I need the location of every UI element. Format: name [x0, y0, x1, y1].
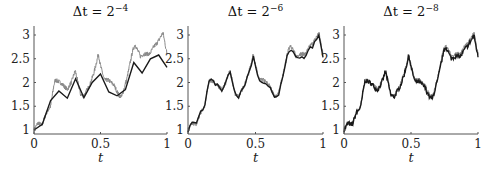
- y-tick-label: 2: [332, 76, 340, 90]
- panel-3: Δt = 2−811.522.5300.51t: [321, 3, 482, 165]
- approximation-line: [188, 35, 323, 132]
- panel-1: Δt = 2−411.522.5300.51t: [11, 3, 171, 165]
- y-tick-label: 3: [332, 28, 340, 42]
- y-tick-label: 1: [22, 123, 30, 137]
- panel-title: Δt = 2−8: [383, 3, 439, 19]
- approximation-line: [344, 35, 478, 132]
- x-tick-label: 0.5: [246, 137, 265, 151]
- y-tick-label: 1: [332, 123, 340, 137]
- y-tick-label: 2: [22, 76, 30, 90]
- y-tick-label: 2.5: [165, 52, 184, 66]
- x-tick-label: 1: [319, 137, 327, 151]
- y-tick-label: 3: [176, 28, 184, 42]
- y-tick-label: 1.5: [165, 99, 184, 113]
- y-tick-label: 1: [176, 123, 184, 137]
- panel-title: Δt = 2−4: [73, 3, 129, 19]
- x-tick-label: 0: [184, 137, 192, 151]
- y-tick-label: 3: [22, 28, 30, 42]
- x-axis-label: t: [98, 150, 104, 165]
- panel-title: Δt = 2−6: [228, 3, 284, 19]
- x-axis-label: t: [408, 150, 414, 165]
- y-tick-label: 1.5: [321, 99, 340, 113]
- x-tick-label: 1: [163, 137, 171, 151]
- exact-path-line: [34, 32, 167, 132]
- x-tick-label: 0.5: [401, 137, 420, 151]
- y-tick-label: 2: [176, 76, 184, 90]
- x-axis-label: t: [253, 150, 259, 165]
- y-tick-label: 2.5: [321, 52, 340, 66]
- x-tick-label: 0.5: [91, 137, 110, 151]
- x-tick-label: 0: [340, 137, 348, 151]
- x-tick-label: 1: [474, 137, 482, 151]
- x-tick-label: 0: [30, 137, 38, 151]
- y-tick-label: 1.5: [11, 99, 30, 113]
- panel-2: Δt = 2−611.522.5300.51t: [165, 3, 327, 165]
- figure: Δt = 2−411.522.5300.51tΔt = 2−611.522.53…: [0, 0, 497, 169]
- y-tick-label: 2.5: [11, 52, 30, 66]
